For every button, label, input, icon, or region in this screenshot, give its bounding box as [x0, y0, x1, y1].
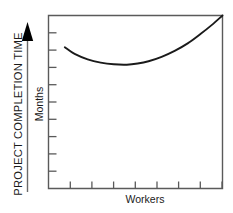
- x-axis-label: Workers: [105, 192, 185, 206]
- y-axis-label: Months: [32, 64, 46, 144]
- x-axis-ticks: [70, 182, 222, 189]
- plot-frame-border: [49, 16, 223, 189]
- axis-caption-label: PROJECT COMPLETION TIME: [10, 34, 26, 194]
- chart-figure: PROJECT COMPLETION TIME Months Workers: [0, 0, 233, 213]
- data-curve: [65, 16, 223, 65]
- plot-frame: [49, 16, 223, 189]
- y-axis-ticks: [49, 33, 57, 171]
